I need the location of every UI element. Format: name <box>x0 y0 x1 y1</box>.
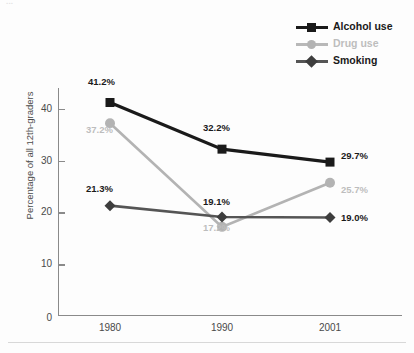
legend-item-alcohol-use[interactable]: Alcohol use <box>296 18 414 35</box>
diamond-marker-icon <box>305 55 318 68</box>
point-label-alcohol-1990: 32.2% <box>203 122 230 133</box>
point-label-drug-2001: 25.7% <box>341 184 368 195</box>
y-tick-label-10: 10 <box>22 258 52 269</box>
top-caption: ... <box>6 0 13 6</box>
legend-label-alcohol-use: Alcohol use <box>333 21 393 32</box>
y-axis-label: Percentage of all 12th-graders <box>24 61 35 251</box>
legend-key-drug-use <box>296 38 328 50</box>
bottom-divider <box>8 342 406 343</box>
circle-marker-icon <box>307 40 316 49</box>
plot-area <box>58 88 402 316</box>
y-tick-20 <box>58 212 65 214</box>
y-tick-30 <box>58 161 65 163</box>
point-label-alcohol-2001: 29.7% <box>341 150 368 161</box>
legend-item-drug-use[interactable]: Drug use <box>296 35 414 52</box>
legend-label-smoking: Smoking <box>333 55 377 66</box>
chart-legend: Alcohol use Drug use Smoking <box>296 18 414 69</box>
point-label-smoking-1980: 21.3% <box>86 183 113 194</box>
y-tick-10 <box>58 264 65 266</box>
point-label-alcohol-1980: 41.2% <box>88 76 115 87</box>
legend-key-alcohol-use <box>296 21 328 33</box>
point-label-drug-1980: 37.2% <box>86 124 113 135</box>
point-label-smoking-2001: 19.0% <box>341 212 368 223</box>
point-label-smoking-1990: 19.1% <box>203 196 230 207</box>
square-marker-icon <box>307 23 316 32</box>
x-tick-label-1980: 1980 <box>80 322 140 333</box>
legend-item-smoking[interactable]: Smoking <box>296 52 414 69</box>
x-tick-label-1990: 1990 <box>192 322 252 333</box>
y-tick-label-0: 0 <box>22 312 52 323</box>
point-label-drug-1990: 17.2% <box>203 222 230 233</box>
x-tick-label-2001: 2001 <box>300 322 360 333</box>
chart-figure: ... Alcohol use Drug use Smoking <box>0 0 414 353</box>
legend-key-smoking <box>296 55 328 67</box>
legend-label-drug-use: Drug use <box>333 38 379 49</box>
y-tick-40 <box>58 109 65 111</box>
